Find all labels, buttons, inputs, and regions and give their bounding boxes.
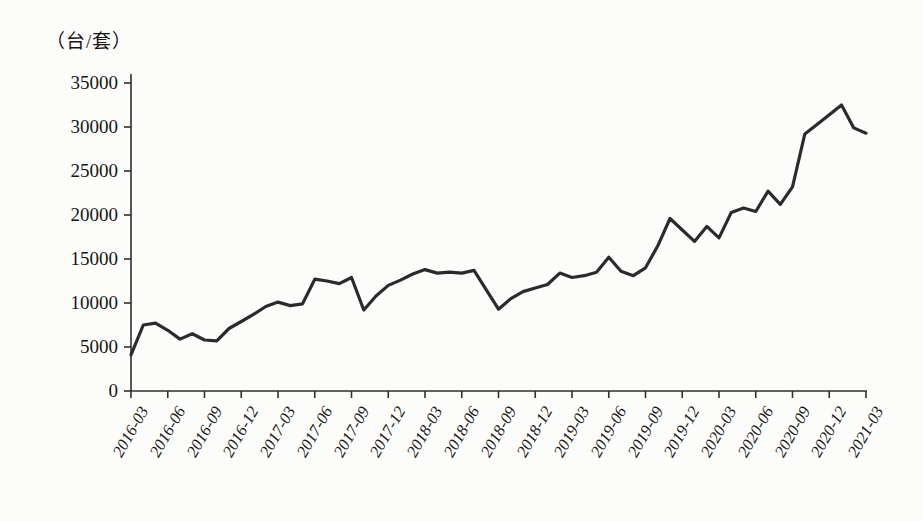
y-tick-label: 30000: [38, 116, 118, 138]
y-axis-unit-label: （台/套）: [46, 26, 132, 53]
y-tick-label: 15000: [38, 248, 118, 270]
y-tick-label: 5000: [38, 336, 118, 358]
y-tick-label: 35000: [38, 72, 118, 94]
axes: [131, 74, 867, 391]
y-tick-label: 20000: [38, 204, 118, 226]
y-tick-label: 0: [38, 380, 118, 402]
y-tick-label: 25000: [38, 160, 118, 182]
line-chart-figure: （台/套） 0500010000150002000025000300003500…: [0, 0, 923, 521]
axis-ticks: [124, 83, 866, 398]
y-tick-label: 10000: [38, 292, 118, 314]
series-line: [131, 105, 866, 355]
